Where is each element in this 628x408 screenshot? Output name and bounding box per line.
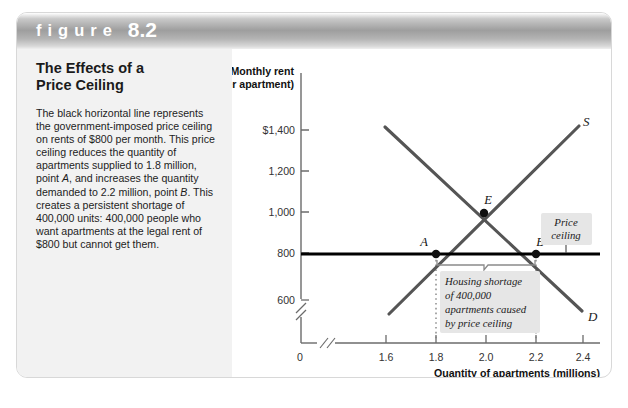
- figure-title-line-1: The Effects of a: [36, 60, 144, 76]
- housing-shortage-line-3: apartments caused: [445, 303, 527, 315]
- housing-shortage-line-1: Housing shortage: [444, 275, 522, 287]
- supply-curve-label: S: [583, 114, 590, 129]
- figure-caption-text: The black horizontal line represents the…: [36, 107, 219, 251]
- y-axis-title-line-1: Monthly rent: [232, 65, 294, 77]
- figure-header-band: figure8.2: [17, 13, 612, 49]
- y-axis-ticks: [301, 130, 309, 300]
- price-ceiling-callout-line-1: Price: [553, 216, 578, 228]
- figure-number-label: 8.2: [128, 18, 157, 41]
- x-tick-label-2-2: 2.2: [529, 351, 544, 363]
- origin-label: 0: [297, 351, 303, 363]
- figure-title-line-2: Price Ceiling: [36, 77, 124, 93]
- figure-word-label: figure: [36, 21, 118, 39]
- housing-shortage-line-4: by price ceiling: [445, 317, 513, 329]
- point-b-marker: [532, 250, 540, 258]
- y-tick-label-600: 600: [277, 294, 295, 306]
- point-e-label: E: [483, 193, 492, 207]
- x-axis-ticks: [386, 335, 583, 343]
- point-e-marker: [480, 209, 488, 217]
- housing-shortage-line-2: of 400,000: [445, 289, 492, 301]
- figure-title: The Effects of a Price Ceiling: [36, 60, 216, 94]
- shortage-brace: [437, 260, 535, 270]
- price-ceiling-chart: Monthly rent (per apartment) $1,400 1,20…: [232, 49, 612, 378]
- price-ceiling-callout-line-2: ceiling: [551, 229, 581, 241]
- y-axis-title-line-2: (per apartment): [232, 78, 294, 90]
- x-axis-title: Quantity of apartments (millions): [434, 367, 600, 378]
- y-tick-label-1000: 1,000: [268, 206, 295, 218]
- x-tick-label-1-6: 1.6: [379, 351, 394, 363]
- point-a-marker: [432, 250, 440, 258]
- y-tick-label-1400: $1,400: [263, 124, 296, 136]
- figure-panel: figure8.2 The Effects of a Price Ceiling…: [16, 12, 612, 378]
- chart-points: [432, 209, 540, 258]
- x-tick-label-2-4: 2.4: [576, 351, 591, 363]
- figure-header-text: figure8.2: [36, 18, 157, 42]
- housing-shortage-callout: Housing shortage of 400,000 apartments c…: [440, 271, 540, 333]
- demand-curve-label: D: [587, 309, 598, 324]
- point-a-label: A: [419, 235, 428, 249]
- x-tick-label-1-8: 1.8: [429, 351, 444, 363]
- y-tick-label-800: 800: [277, 247, 295, 259]
- price-ceiling-callout: Price ceiling: [541, 213, 592, 253]
- x-tick-label-2-0: 2.0: [479, 351, 494, 363]
- y-tick-label-1200: 1,200: [268, 165, 295, 177]
